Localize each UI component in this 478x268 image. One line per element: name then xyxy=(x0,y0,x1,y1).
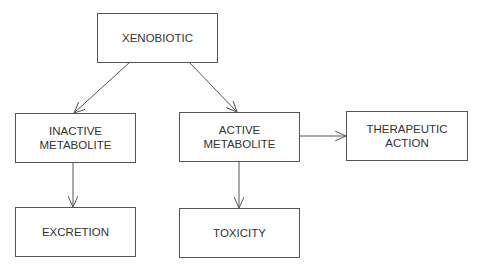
node-label: XENOBIOTIC xyxy=(122,31,193,45)
arrow-xenobiotic-to-active xyxy=(189,62,237,112)
node-xenobiotic: XENOBIOTIC xyxy=(97,13,218,63)
node-excretion: EXCRETION xyxy=(15,207,136,257)
node-label: INACTIVE METABOLITE xyxy=(40,124,112,152)
node-toxicity: TOXICITY xyxy=(179,208,300,258)
node-label: ACTIVE METABOLITE xyxy=(204,123,276,151)
node-therapeutic-action: THERAPEUTIC ACTION xyxy=(346,111,468,161)
node-label: EXCRETION xyxy=(42,225,109,239)
node-active-metabolite: ACTIVE METABOLITE xyxy=(179,112,300,162)
arrow-xenobiotic-to-inactive xyxy=(74,62,130,113)
node-label: THERAPEUTIC ACTION xyxy=(366,122,447,150)
node-inactive-metabolite: INACTIVE METABOLITE xyxy=(15,113,136,163)
node-label: TOXICITY xyxy=(213,226,266,240)
